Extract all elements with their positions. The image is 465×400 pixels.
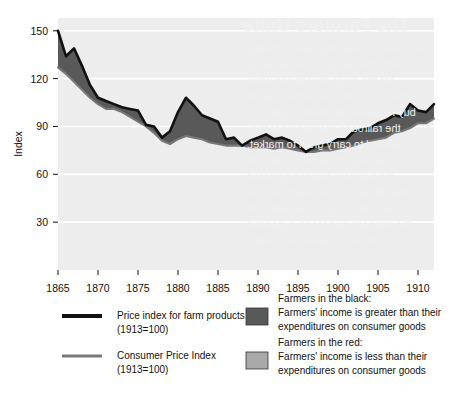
y-axis-title: Index bbox=[12, 130, 24, 156]
x-axis-tick-labels: 1865187018751880188518901895190019051910 bbox=[46, 270, 430, 294]
legend-label-black-line1: Farmers in the black: bbox=[278, 293, 371, 304]
y-axis-tick-labels: 306090120150 bbox=[30, 25, 58, 228]
x-tick-label: 1870 bbox=[86, 282, 110, 294]
x-tick-label: 1910 bbox=[406, 282, 430, 294]
x-tick-label: 1875 bbox=[126, 282, 150, 294]
legend-swatch-band-red bbox=[246, 352, 268, 369]
legend-label-black-line3: expenditures on consumer goods bbox=[278, 321, 426, 332]
x-tick-label: 1865 bbox=[46, 282, 70, 294]
y-tick-label: 120 bbox=[30, 73, 48, 85]
y-tick-label: 30 bbox=[36, 216, 48, 228]
legend-label-cpi-line2: (1913=100) bbox=[117, 364, 168, 375]
y-tick-label: 150 bbox=[30, 25, 48, 37]
legend-label-farm-line2: (1913=100) bbox=[117, 324, 168, 335]
chart-figure: The Farmers Unite and made it clear they… bbox=[0, 0, 465, 400]
index-comparison-area-chart: 306090120150 186518701875188018851890189… bbox=[0, 0, 465, 400]
legend-label-red-line2: Farmers' income is less than their bbox=[278, 351, 428, 362]
x-tick-label: 1890 bbox=[246, 282, 270, 294]
x-tick-label: 1885 bbox=[206, 282, 230, 294]
y-tick-label: 60 bbox=[36, 168, 48, 180]
legend-label-black-line2: Farmers' income is greater than their bbox=[278, 307, 442, 318]
legend-label-red-line3: expenditures on consumer goods bbox=[278, 365, 426, 376]
legend-label-farm-line1: Price index for farm products bbox=[117, 310, 245, 321]
y-tick-label: 90 bbox=[36, 120, 48, 132]
legend-label-red-line1: Farmers in the red: bbox=[278, 337, 362, 348]
legend-swatch-band-black bbox=[246, 308, 268, 325]
legend-label-cpi-line1: Consumer Price Index bbox=[117, 350, 216, 361]
x-tick-label: 1880 bbox=[166, 282, 190, 294]
chart-legend: Price index for farm products (1913=100)… bbox=[62, 293, 442, 376]
